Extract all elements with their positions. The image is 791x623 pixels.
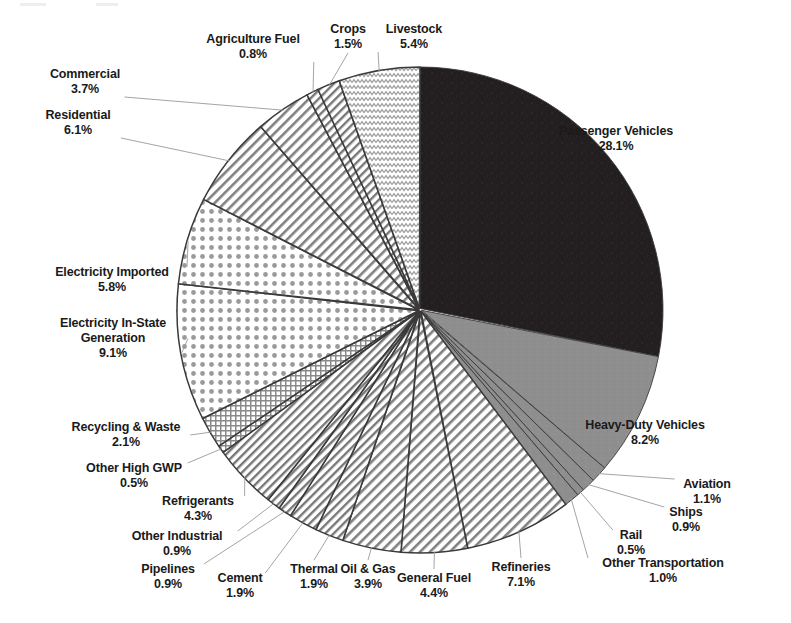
leader-line — [314, 535, 330, 561]
leader-line — [598, 474, 674, 479]
leader-line — [519, 531, 521, 558]
leader-line — [204, 511, 286, 564]
leader-line — [190, 432, 211, 435]
leader-line — [580, 492, 613, 530]
leader-line — [588, 484, 665, 507]
leader-line — [313, 62, 314, 93]
leader-line — [571, 499, 588, 558]
leader-line — [121, 138, 229, 161]
pie-slices — [177, 67, 663, 553]
leader-line — [265, 522, 303, 573]
pie-chart-graphic — [0, 0, 791, 623]
leader-line — [125, 97, 284, 110]
pie-chart-page: Passenger Vehicles28.1%Heavy-Duty Vehicl… — [0, 0, 791, 623]
leader-line — [378, 52, 379, 72]
leader-line — [368, 547, 372, 560]
pie-slice — [420, 67, 663, 357]
leader-line — [238, 503, 274, 531]
leader-line — [188, 449, 222, 463]
